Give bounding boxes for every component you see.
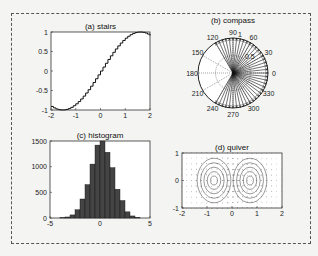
x-tick-label: 5 [148, 220, 152, 227]
stairs-plot: (a) stairs-2-1012-1-0.500.51 [36, 22, 152, 119]
angle-label: 210 [192, 90, 204, 97]
angle-label: 240 [207, 105, 219, 112]
y-tick-label: 1 [44, 29, 48, 36]
histogram-bar [90, 164, 95, 218]
histogram-bar [75, 210, 80, 218]
x-tick-label: 1 [255, 210, 259, 217]
y-tick-label: 1000 [31, 163, 47, 170]
subplot-title: (b) compass [211, 16, 255, 25]
y-tick-label: 0.5 [38, 48, 48, 55]
radius-label: 1 [238, 31, 242, 38]
x-tick-label: -2 [48, 112, 54, 119]
figure-canvas: (a) stairs-2-1012-1-0.500.51(b) compass0… [0, 0, 318, 256]
y-tick-label: -1 [173, 205, 179, 212]
y-tick-label: 1 [175, 150, 179, 157]
y-tick-label: 0 [44, 68, 48, 75]
subplot-title: (d) quiver [215, 143, 249, 152]
angle-label: 180 [186, 70, 198, 77]
histogram-bar [70, 215, 75, 218]
histogram-bar [110, 168, 115, 218]
x-tick-label: 0 [230, 210, 234, 217]
angle-label: 0 [272, 70, 276, 77]
histogram-bar [100, 141, 105, 218]
y-tick-label: 0 [43, 215, 47, 222]
subplot-title: (a) stairs [85, 22, 116, 31]
histogram-bar [115, 189, 120, 218]
x-tick-label: 0 [99, 112, 103, 119]
x-tick-label: -1 [204, 210, 210, 217]
angle-label: 60 [250, 34, 258, 41]
x-tick-label: 0 [98, 220, 102, 227]
subplot-title: (c) histogram [77, 131, 124, 140]
x-tick-label: -1 [73, 112, 79, 119]
y-tick-label: -1 [42, 107, 48, 114]
x-tick-label: 1 [123, 112, 127, 119]
histogram-plot: (c) histogram-505050010001500 [31, 131, 152, 227]
angle-label: 150 [192, 49, 204, 56]
x-tick-label: -5 [47, 220, 53, 227]
histogram-bar [65, 217, 70, 218]
y-tick-label: 500 [35, 189, 47, 196]
x-tick-label: 2 [148, 112, 152, 119]
angle-label: 300 [248, 105, 260, 112]
y-tick-label: 0 [175, 177, 179, 184]
histogram-bar [125, 212, 130, 218]
x-tick-label: 2 [280, 210, 284, 217]
y-tick-label: -0.5 [36, 87, 48, 94]
quiver-plot: (d) quiver-2-1012-101 [173, 143, 284, 217]
angle-label: 120 [207, 34, 219, 41]
histogram-bar [135, 217, 140, 218]
compass-plot: (b) compass03060901201501802102402703003… [186, 16, 276, 118]
angle-label: 330 [263, 90, 275, 97]
histogram-bar [95, 145, 100, 218]
y-tick-label: 1500 [31, 138, 47, 145]
x-tick-label: -2 [179, 210, 185, 217]
angle-label: 30 [265, 49, 273, 56]
histogram-bar [120, 201, 125, 218]
histogram-bar [80, 199, 85, 218]
histogram-bar [130, 216, 135, 218]
angle-label: 270 [227, 111, 239, 118]
histogram-bar [85, 185, 90, 218]
histogram-bar [105, 152, 110, 218]
angle-label: 90 [229, 29, 237, 36]
